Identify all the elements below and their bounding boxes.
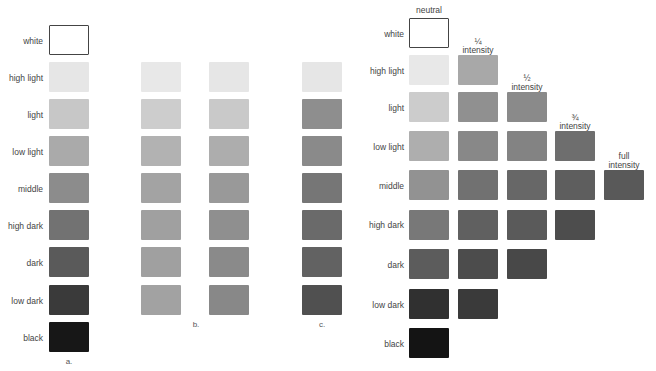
swatch-a-light bbox=[49, 99, 89, 129]
swatch-b-col1-row7 bbox=[141, 285, 181, 315]
swatch-right-dark-col1 bbox=[409, 249, 449, 279]
swatch-right-dark-col3 bbox=[507, 249, 547, 279]
swatch-b-col2-row5 bbox=[209, 210, 249, 240]
swatch-a-dark bbox=[49, 247, 89, 277]
caption-c: c. bbox=[307, 320, 337, 329]
swatch-b-col2-row2 bbox=[209, 99, 249, 129]
row-label-dark: dark bbox=[0, 258, 43, 268]
header-full-intensity: intensity bbox=[594, 160, 654, 170]
swatch-right-middle-col5 bbox=[604, 170, 644, 200]
swatch-right-light-col2 bbox=[458, 92, 498, 122]
swatch-a-white bbox=[49, 25, 89, 55]
right-row-label-low-light: low light bbox=[334, 142, 404, 152]
row-label-light: light bbox=[0, 110, 43, 120]
right-row-label-light: light bbox=[334, 103, 404, 113]
swatch-b-col1-row4 bbox=[141, 173, 181, 203]
swatch-a-low-light bbox=[49, 136, 89, 166]
right-row-label-high-light: high light bbox=[334, 66, 404, 76]
swatch-b-col2-row3 bbox=[209, 136, 249, 166]
swatch-right-dark-col2 bbox=[458, 249, 498, 279]
header-three-quarter-intensity: intensity bbox=[545, 121, 605, 131]
swatch-a-black bbox=[49, 322, 89, 352]
swatch-right-high-dark-col4 bbox=[555, 210, 595, 240]
row-label-low-dark: low dark bbox=[0, 296, 43, 306]
swatch-a-middle bbox=[49, 173, 89, 203]
swatch-b-col2-row7 bbox=[209, 285, 249, 315]
swatch-right-middle-col4 bbox=[555, 170, 595, 200]
swatch-b-col1-row5 bbox=[141, 210, 181, 240]
swatch-b-col1-row2 bbox=[141, 99, 181, 129]
right-row-label-black: black bbox=[334, 339, 404, 349]
row-label-high-light: high light bbox=[0, 73, 43, 83]
header-half-intensity: intensity bbox=[497, 82, 557, 92]
swatch-b-col2-row6 bbox=[209, 247, 249, 277]
swatch-b-col1-row6 bbox=[141, 247, 181, 277]
row-label-low-light: low light bbox=[0, 147, 43, 157]
swatch-right-high-dark-col1 bbox=[409, 210, 449, 240]
swatch-right-low-dark-col1 bbox=[409, 289, 449, 319]
swatch-right-middle-col1 bbox=[409, 170, 449, 200]
row-label-middle: middle bbox=[0, 184, 43, 194]
swatch-right-light-col3 bbox=[507, 92, 547, 122]
right-row-label-dark: dark bbox=[334, 260, 404, 270]
swatch-right-black-col1 bbox=[409, 328, 449, 358]
swatch-right-white-col1 bbox=[409, 18, 449, 48]
swatch-b-col2-row4 bbox=[209, 173, 249, 203]
swatch-b-col1-row1 bbox=[141, 62, 181, 92]
swatch-right-light-col1 bbox=[409, 92, 449, 122]
caption-a: a. bbox=[54, 357, 84, 366]
swatch-right-low-dark-col2 bbox=[458, 289, 498, 319]
swatch-a-high-dark bbox=[49, 210, 89, 240]
right-row-label-low-dark: low dark bbox=[334, 300, 404, 310]
swatch-a-high-light bbox=[49, 62, 89, 92]
swatch-right-low-light-col4 bbox=[555, 131, 595, 161]
swatch-a-low-dark bbox=[49, 285, 89, 315]
swatch-right-middle-col2 bbox=[458, 170, 498, 200]
swatch-right-high-light-col1 bbox=[409, 55, 449, 85]
swatch-right-high-light-col2 bbox=[458, 55, 498, 85]
right-row-label-middle: middle bbox=[334, 181, 404, 191]
swatch-b-col1-row3 bbox=[141, 136, 181, 166]
swatch-right-low-light-col3 bbox=[507, 131, 547, 161]
header-quarter-intensity: intensity bbox=[448, 45, 508, 55]
row-label-black: black bbox=[0, 333, 43, 343]
swatch-right-low-light-col1 bbox=[409, 131, 449, 161]
swatch-right-high-dark-col2 bbox=[458, 210, 498, 240]
swatch-right-low-light-col2 bbox=[458, 131, 498, 161]
row-label-high-dark: high dark bbox=[0, 221, 43, 231]
caption-b: b. bbox=[181, 320, 211, 329]
swatch-b-col2-row1 bbox=[209, 62, 249, 92]
swatch-right-high-dark-col3 bbox=[507, 210, 547, 240]
header-neutral: neutral bbox=[399, 5, 459, 15]
row-label-white: white bbox=[0, 36, 43, 46]
swatch-right-middle-col3 bbox=[507, 170, 547, 200]
right-row-label-high-dark: high dark bbox=[334, 220, 404, 230]
right-row-label-white: white bbox=[334, 29, 404, 39]
